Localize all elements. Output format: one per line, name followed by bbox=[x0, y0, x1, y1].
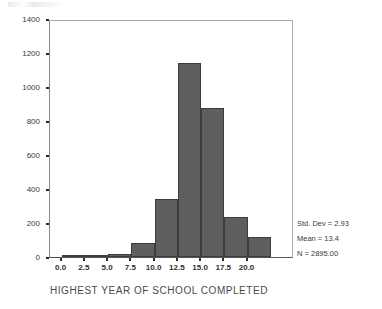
stat-std-dev: Std. Dev = 2.93 bbox=[297, 216, 381, 231]
stat-mean: Mean = 13.4 bbox=[297, 231, 381, 246]
x-axis-tick-label: 20.0 bbox=[239, 263, 255, 272]
histogram-figure: 0200400600800100012001400 0.02.55.07.510… bbox=[0, 0, 382, 309]
x-axis-tick-label: 10.0 bbox=[146, 263, 162, 272]
x-axis-tick-label: 12.5 bbox=[169, 263, 185, 272]
stat-n: N = 2895.00 bbox=[297, 246, 381, 261]
x-axis-tick-mark bbox=[106, 258, 108, 261]
x-axis-tick-mark bbox=[246, 258, 248, 261]
x-axis-tick-mark bbox=[176, 258, 178, 261]
x-axis-tick-label: 15.0 bbox=[192, 263, 208, 272]
x-axis-tick-mark bbox=[199, 258, 201, 261]
x-axis-tick-label: 0.0 bbox=[55, 263, 66, 272]
x-axis-tick-label: 17.5 bbox=[215, 263, 231, 272]
x-axis-tick-label: 2.5 bbox=[78, 263, 89, 272]
x-axis-tick-mark bbox=[153, 258, 155, 261]
x-axis-tick-mark bbox=[222, 258, 224, 261]
x-axis-tick-mark bbox=[83, 258, 85, 261]
x-axis-tick-label: 7.5 bbox=[125, 263, 136, 272]
x-axis: 0.02.55.07.510.012.515.017.520.0 bbox=[0, 0, 382, 309]
x-axis-tick-mark bbox=[129, 258, 131, 261]
x-axis-title: HIGHEST YEAR OF SCHOOL COMPLETED bbox=[0, 285, 318, 296]
x-axis-tick-mark bbox=[60, 258, 62, 261]
x-axis-tick-label: 5.0 bbox=[102, 263, 113, 272]
statistics-annotation: Std. Dev = 2.93 Mean = 13.4 N = 2895.00 bbox=[297, 216, 381, 261]
